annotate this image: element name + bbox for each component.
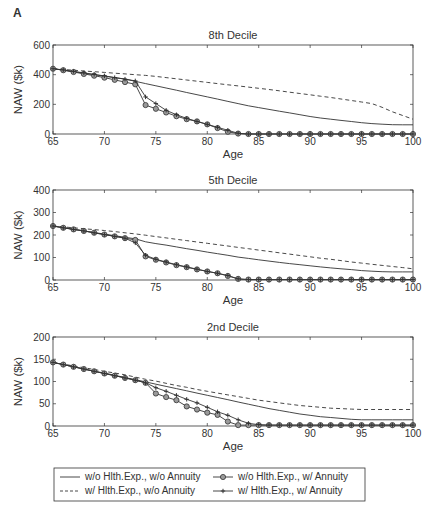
x-tick-label: 75 [150,428,162,439]
circle-marker [225,419,230,424]
circle-marker [184,404,189,409]
circle-marker [153,391,158,396]
legend-item-label: w/ Hlth.Exp., w/ Annuity [237,485,343,496]
y-tick-label: 0 [44,421,50,432]
circle-marker [153,106,158,111]
y-tick-label: 300 [33,207,50,218]
plus-marker [174,393,178,397]
series-line [53,362,413,409]
x-tick-label: 90 [305,136,317,147]
plot-title: 5th Decile [209,174,258,186]
series-line [53,226,413,272]
x-tick-label: 85 [253,136,265,147]
plus-marker [164,389,168,393]
y-tick-label: 400 [33,69,50,80]
plus-marker [185,397,189,401]
legend-item-label: w/o Hlth.Exp., w/o Annuity [84,471,201,482]
plot-title: 2nd Decile [207,321,259,333]
circle-marker [194,407,199,412]
y-tick-label: 50 [39,398,51,409]
x-tick-label: 95 [356,136,368,147]
y-tick-label: 400 [33,185,50,196]
y-tick-label: 100 [33,252,50,263]
y-tick-label: 100 [33,376,50,387]
y-tick-label: 200 [33,230,50,241]
plot-8th-decile: 8th Decile657075808590951000200400600Age… [12,29,422,160]
x-tick-label: 80 [202,136,214,147]
x-axis-label: Age [223,148,243,160]
x-tick-label: 95 [356,282,368,293]
plus-marker [154,386,158,390]
figure-canvas: 8th Decile657075808590951000200400600Age… [0,0,430,515]
series-line [53,362,413,425]
series-line [53,226,413,269]
circle-marker [236,423,241,428]
legend-item-label: w/ Hlth.Exp., w/o Annuity [84,485,195,496]
x-tick-label: 100 [405,136,422,147]
legend-item-label: w/o Hlth.Exp., w/ Annuity [237,471,348,482]
y-tick-label: 0 [44,275,50,286]
plot-title: 8th Decile [209,29,258,41]
circle-marker [164,394,169,399]
x-tick-label: 100 [405,428,422,439]
y-tick-label: 0 [44,129,50,140]
x-tick-label: 100 [405,282,422,293]
y-tick-label: 600 [33,40,50,51]
plot-2nd-decile: 2nd Decile65707580859095100050100150200A… [12,321,422,452]
circle-marker [143,102,148,107]
plot-5th-decile: 5th Decile657075808590951000100200300400… [12,174,422,306]
x-tick-label: 85 [253,428,265,439]
x-tick-label: 85 [253,282,265,293]
circle-marker [174,398,179,403]
axes-box [53,337,413,426]
x-tick-label: 90 [305,282,317,293]
circle-marker [220,474,225,479]
plus-marker [195,401,199,405]
x-tick-label: 70 [99,136,111,147]
y-axis-label: NAW ($k) [12,210,24,260]
x-tick-label: 70 [99,282,111,293]
y-tick-label: 200 [33,332,50,343]
x-tick-label: 75 [150,282,162,293]
x-axis-label: Age [223,440,243,452]
plus-marker [226,413,230,417]
series-line [53,362,413,419]
x-tick-label: 70 [99,428,111,439]
y-axis-label: NAW ($k) [12,357,24,407]
axes-box [53,45,413,134]
y-axis-label: NAW ($k) [12,65,24,115]
legend: w/o Hlth.Exp., w/o Annuityw/o Hlth.Exp.,… [54,468,365,501]
y-tick-label: 200 [33,99,50,110]
x-tick-label: 80 [202,282,214,293]
plus-marker [236,418,240,422]
series-line [53,362,413,425]
x-tick-label: 90 [305,428,317,439]
plus-marker [143,95,147,99]
x-tick-label: 80 [202,428,214,439]
plus-marker [205,405,209,409]
x-tick-label: 95 [356,428,368,439]
x-tick-label: 75 [150,136,162,147]
y-tick-label: 150 [33,354,50,365]
x-axis-label: Age [223,294,243,306]
circle-marker [205,410,210,415]
